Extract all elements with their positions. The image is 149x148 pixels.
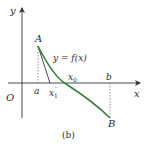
newton-method-diagram: y x O A B y = f(x) a x1′ x0 b (b) bbox=[0, 0, 149, 148]
mark-x0-label: x0 bbox=[68, 72, 77, 83]
point-a-label: A bbox=[34, 33, 42, 44]
mark-a-label: a bbox=[34, 86, 39, 96]
mark-x1prime-label: x1′ bbox=[49, 86, 58, 99]
figure-caption: (b) bbox=[62, 130, 75, 140]
mark-b-label: b bbox=[106, 72, 112, 82]
x-axis-label: x bbox=[134, 88, 140, 99]
origin-label: O bbox=[6, 92, 14, 103]
curve-label: y = f(x) bbox=[52, 53, 87, 63]
point-b-label: B bbox=[107, 118, 115, 129]
y-axis-label: y bbox=[9, 5, 16, 16]
